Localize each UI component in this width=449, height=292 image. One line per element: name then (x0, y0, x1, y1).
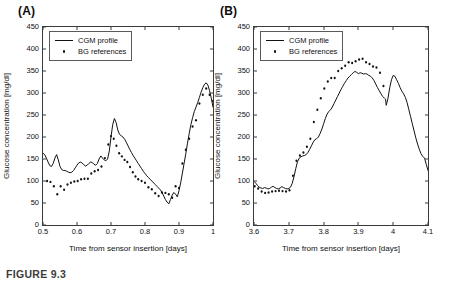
y-tick-mark (425, 181, 428, 182)
bg-reference-point (70, 182, 72, 184)
y-tick-mark (254, 203, 257, 204)
x-tick-mark (77, 27, 78, 30)
bg-reference-point (181, 162, 183, 164)
y-tick-label: 350 (26, 67, 39, 75)
y-tick-mark (425, 92, 428, 93)
y-tick-mark (254, 71, 257, 72)
y-tick-mark (43, 71, 46, 72)
bg-reference-point (372, 65, 374, 67)
x-tick-mark (358, 222, 359, 225)
bg-reference-point (66, 183, 68, 185)
x-tick-mark (323, 222, 324, 225)
x-tick-label: 3.8 (318, 228, 328, 236)
x-tick-mark (179, 222, 180, 225)
bg-reference-point (63, 189, 65, 191)
bg-reference-point (323, 87, 325, 89)
y-tick-label: 450 (237, 23, 250, 31)
bg-reference-point (188, 138, 190, 140)
dot-swatch-icon (54, 50, 74, 52)
y-tick-mark (254, 158, 257, 159)
y-tick-label: 250 (26, 111, 39, 119)
bg-reference-point (292, 174, 294, 176)
y-tick-label: 150 (237, 155, 250, 163)
panel-b-x-axis-title: Time from sensor insertion [days] (253, 244, 429, 253)
bg-reference-point (264, 192, 266, 194)
bg-reference-point (362, 57, 364, 59)
x-tick-label: 0.8 (140, 228, 150, 236)
y-tick-mark (425, 137, 428, 138)
y-tick-label: 400 (26, 45, 39, 53)
bg-reference-point (178, 187, 180, 189)
y-tick-mark (210, 71, 213, 72)
bg-reference-point (368, 63, 370, 65)
y-tick-label: 100 (237, 177, 250, 185)
y-tick-label: 100 (26, 177, 39, 185)
bg-reference-point (115, 145, 117, 147)
bg-reference-point (151, 188, 153, 190)
legend-entry-bg-references: BG references (265, 46, 337, 57)
y-tick-mark (425, 203, 428, 204)
bg-reference-point (129, 166, 131, 168)
bg-reference-point (113, 138, 115, 140)
bg-reference-point (185, 149, 187, 151)
bg-reference-point (94, 170, 96, 172)
y-tick-mark (425, 158, 428, 159)
x-tick-mark (288, 27, 289, 30)
x-tick-mark (288, 222, 289, 225)
x-tick-mark (111, 222, 112, 225)
y-tick-mark (425, 115, 428, 116)
bg-reference-point (295, 160, 297, 162)
y-tick-mark (254, 49, 257, 50)
bg-reference-point (299, 154, 301, 156)
y-tick-label: 200 (26, 133, 39, 141)
bg-reference-point (275, 190, 277, 192)
bg-reference-point (60, 185, 62, 187)
y-tick-label: 200 (237, 133, 250, 141)
bg-reference-point (134, 175, 136, 177)
bg-reference-point (192, 125, 194, 127)
bg-reference-point (147, 186, 149, 188)
y-tick-mark (43, 181, 46, 182)
cgm-profile-line (254, 71, 428, 188)
bg-reference-point (144, 182, 146, 184)
y-tick-label: 150 (26, 155, 39, 163)
x-tick-mark (111, 27, 112, 30)
bg-reference-point (168, 193, 170, 195)
legend-label-cgm-profile: CGM profile (289, 37, 329, 45)
panel-a-legend: CGM profile BG references (49, 31, 132, 61)
y-tick-label: 50 (242, 199, 250, 207)
x-tick-mark (77, 222, 78, 225)
x-tick-label: 0.5 (38, 228, 48, 236)
x-tick-mark (254, 27, 255, 30)
bg-reference-point (154, 192, 156, 194)
dot-swatch-icon (265, 50, 285, 52)
bg-reference-point (302, 151, 304, 153)
y-tick-mark (43, 137, 46, 138)
bg-reference-point (164, 192, 166, 194)
x-tick-mark (428, 27, 429, 30)
bg-reference-point (334, 77, 336, 79)
panel-b: (B) CGM profile BG references 0501001502… (215, 0, 439, 262)
bg-reference-point (271, 190, 273, 192)
bg-reference-point (205, 87, 207, 89)
x-tick-label: 0.7 (106, 228, 116, 236)
y-tick-label: 50 (31, 199, 39, 207)
bg-reference-point (209, 94, 211, 96)
x-tick-mark (145, 222, 146, 225)
y-tick-mark (425, 71, 428, 72)
bg-reference-point (261, 190, 263, 192)
bg-reference-point (344, 64, 346, 66)
cgm-profile-line (43, 83, 213, 204)
figure-container: (A) CGM profile BG references 0501001502… (0, 0, 449, 292)
legend-label-cgm-profile: CGM profile (78, 37, 118, 45)
y-tick-mark (43, 115, 46, 116)
bg-reference-point (137, 178, 139, 180)
y-tick-mark (254, 181, 257, 182)
y-tick-label: 300 (26, 89, 39, 97)
bg-reference-point (268, 191, 270, 193)
panel-a-y-axis-title: Glucose concentration [mg/dl] (2, 73, 11, 179)
y-tick-label: 250 (237, 111, 250, 119)
bg-reference-point (195, 119, 197, 121)
x-tick-mark (145, 27, 146, 30)
bg-reference-point (121, 155, 123, 157)
